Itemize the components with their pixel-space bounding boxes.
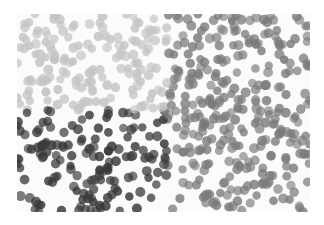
particle-image [17,14,310,212]
particle-field [17,14,310,212]
